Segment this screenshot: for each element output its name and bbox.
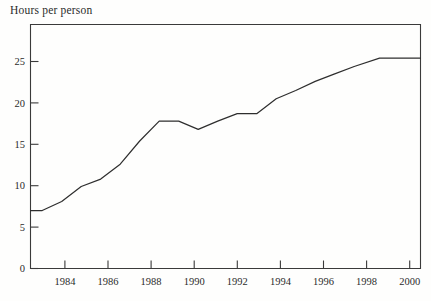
y-axis-labels: 0 5 10 15 20 25 — [15, 56, 26, 274]
x-axis-label-1996: 1996 — [313, 276, 334, 287]
x-axis-label-1990: 1990 — [184, 276, 205, 287]
x-axis-label-1992: 1992 — [227, 276, 248, 287]
x-axis-label-1986: 1986 — [98, 276, 119, 287]
plot-frame — [31, 25, 421, 269]
x-axis-label-1988: 1988 — [141, 276, 162, 287]
y-axis-label-15: 15 — [15, 139, 26, 150]
x-axis-label-1984: 1984 — [54, 276, 76, 287]
y-axis-label-5: 5 — [20, 222, 25, 233]
x-axis-label-2000: 2000 — [399, 276, 420, 287]
y-axis-label-10: 10 — [15, 180, 26, 191]
x-axis-ticks — [65, 261, 410, 269]
x-axis-label-1998: 1998 — [356, 276, 377, 287]
y-axis-ticks — [31, 62, 39, 269]
x-axis-label-1994: 1994 — [270, 276, 292, 287]
y-axis-label-0: 0 — [20, 263, 25, 274]
line-chart: 0 5 10 15 20 25 1984 1986 1988 1990 1992 — [0, 0, 431, 301]
y-axis-label-25: 25 — [15, 56, 26, 67]
data-series-line — [31, 58, 421, 210]
chart-page: Hours per person 0 5 10 15 20 25 — [0, 0, 431, 301]
x-axis-labels: 1984 1986 1988 1990 1992 1994 1996 1998 … — [54, 276, 420, 287]
y-axis-label-20: 20 — [15, 98, 26, 109]
